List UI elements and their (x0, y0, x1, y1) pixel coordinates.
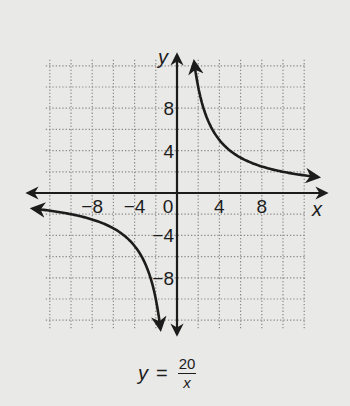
equation-numerator: 20 (178, 356, 197, 374)
equation-fraction: 20 x (178, 356, 197, 390)
curve-branch-positive (194, 62, 318, 177)
x-tick-label: −8 (81, 196, 103, 217)
y-tick-label: −8 (152, 268, 174, 289)
y-tick-label: 4 (163, 141, 174, 162)
equation-caption: y = 20 x (138, 356, 196, 390)
y-tick-label: −4 (152, 225, 174, 246)
curves (33, 62, 318, 329)
equation-denominator: x (183, 374, 191, 390)
curve-branch-negative (33, 209, 161, 329)
y-axis-label: y (156, 46, 169, 68)
axes (28, 55, 326, 334)
x-tick-label: 4 (214, 196, 225, 217)
x-tick-label: −4 (124, 196, 146, 217)
y-tick-label: 8 (163, 98, 174, 119)
x-axis-label: x (311, 198, 323, 220)
equation-equals: = (156, 362, 168, 385)
x-tick-label: 8 (257, 196, 268, 217)
x-tick-label: 0 (163, 196, 174, 217)
hyperbola-graph: −8−404884−4−8 x y (0, 0, 350, 406)
equation-lhs: y (138, 362, 148, 385)
